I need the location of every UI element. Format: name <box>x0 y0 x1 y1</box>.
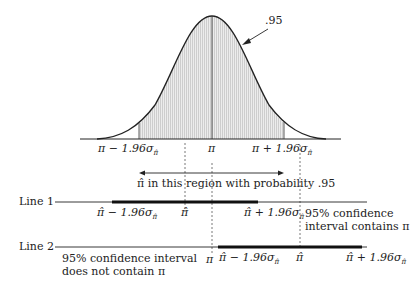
line1-center-label: π̂ <box>181 207 188 219</box>
area-arrowhead-icon <box>242 38 251 45</box>
line2-upper-label: π̂ + 1.96σπ̂ <box>346 252 406 268</box>
line1-label: Line 1 <box>19 196 54 208</box>
line2-center-label: π̂ <box>296 252 303 264</box>
line1-note-2: interval contains π <box>305 221 409 233</box>
line1-upper-label: π̂ + 1.96σπ̂ <box>244 207 304 223</box>
line2-lower-label: π̂ − 1.96σπ̂ <box>219 252 279 268</box>
line2-label: Line 2 <box>19 241 54 253</box>
line2-pi-label: π <box>206 254 213 266</box>
line1-lower-label: π̂ − 1.96σπ̂ <box>97 207 157 223</box>
line2-note-1: 95% confidence interval <box>62 253 197 265</box>
lower-bound-label: π − 1.96σπ̂ <box>98 143 158 159</box>
region-label: π̂ in this region with probability .95 <box>137 178 335 190</box>
arrow-right-icon <box>278 171 284 176</box>
arrow-left-icon <box>139 171 145 176</box>
area-label: .95 <box>265 15 283 27</box>
line2-note-2: does not contain π <box>62 266 165 278</box>
center-label: π <box>208 143 215 155</box>
shaded-area <box>80 16 341 139</box>
line1-note-1: 95% confidence <box>305 208 393 220</box>
upper-bound-label: π + 1.96σπ̂ <box>252 143 312 159</box>
